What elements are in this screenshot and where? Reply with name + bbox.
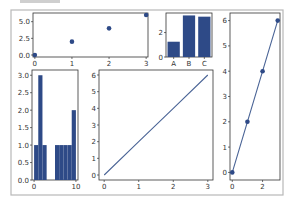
x-tick-label: 2 xyxy=(171,183,175,191)
y-tick-label: 2 xyxy=(223,118,227,126)
y-tick-label: 2.5 xyxy=(18,89,29,97)
data-point xyxy=(70,39,75,44)
hist-bin xyxy=(42,145,46,180)
y-tick-label: 0.0 xyxy=(19,52,30,60)
x-tick-label: 1 xyxy=(136,183,140,191)
data-point xyxy=(230,170,235,175)
y-tick-label: 0.5 xyxy=(18,159,29,167)
y-tick-label: 1 xyxy=(223,144,227,152)
y-tick-label: 4 xyxy=(223,68,228,76)
x-tick-label: 3 xyxy=(144,60,148,68)
hist-bin xyxy=(34,145,38,180)
y-tick-label: 1 xyxy=(92,155,96,163)
bar-B xyxy=(183,15,195,57)
axes-box xyxy=(33,13,148,57)
data-point xyxy=(107,26,112,31)
bottom-left-histogram-axes: 0100.00.51.01.52.02.53.0 xyxy=(18,70,81,191)
data-point xyxy=(245,120,250,125)
y-tick-label: 4 xyxy=(92,105,97,113)
y-tick-label: 5.0 xyxy=(19,18,30,26)
y-tick-label: 2.0 xyxy=(18,107,29,115)
y-tick-label: 5 xyxy=(92,88,96,96)
x-tick-label: 2 xyxy=(260,183,264,191)
y-tick-label: 0 xyxy=(223,169,227,177)
bottom-middle-line-axes: 01230123456 xyxy=(92,70,213,191)
y-tick-label: 6 xyxy=(92,72,97,80)
bar-C xyxy=(198,17,210,57)
data-point xyxy=(260,69,265,74)
data-point xyxy=(33,53,38,58)
right-line-markers-axes: 020123456 xyxy=(223,13,280,191)
hist-bin xyxy=(38,75,42,180)
x-tick-label: 3 xyxy=(206,183,210,191)
figure-canvas: 01230.02.55.0ABC020201234560100.00.51.01… xyxy=(0,0,293,205)
bar-A xyxy=(168,42,180,57)
x-tick-label: 0 xyxy=(33,60,37,68)
top-left-scatter-axes: 01230.02.55.0 xyxy=(19,13,149,68)
x-tick-label: 0 xyxy=(102,183,106,191)
hist-bin xyxy=(63,145,67,180)
x-tick-label: 2 xyxy=(107,60,111,68)
y-tick-label: 2.5 xyxy=(19,35,30,43)
x-tick-label: 10 xyxy=(71,183,80,191)
x-tick-label: B xyxy=(187,60,192,68)
y-tick-label: 3.0 xyxy=(18,72,29,80)
x-tick-label: 0 xyxy=(230,183,234,191)
y-tick-label: 2 xyxy=(92,138,96,146)
x-tick-label: 1 xyxy=(70,60,74,68)
y-tick-label: 1.0 xyxy=(18,142,29,150)
data-point xyxy=(144,13,149,18)
y-tick-label: 3 xyxy=(223,93,227,101)
y-tick-label: 0 xyxy=(159,54,163,62)
x-tick-label: A xyxy=(171,60,176,68)
y-tick-label: 5 xyxy=(223,42,227,50)
y-tick-label: 0 xyxy=(92,172,96,180)
y-tick-label: 6 xyxy=(223,17,228,25)
hist-bin xyxy=(72,110,76,180)
x-tick-label: C xyxy=(202,60,207,68)
y-tick-label: 3 xyxy=(92,122,96,130)
hist-bin xyxy=(59,145,63,180)
y-tick-label: 1.5 xyxy=(18,124,29,132)
x-tick-label: 0 xyxy=(32,183,36,191)
hist-bin xyxy=(55,145,59,180)
y-tick-label: 0.0 xyxy=(18,177,29,185)
top-middle-bar-axes: ABC02 xyxy=(159,13,212,68)
y-tick-label: 2 xyxy=(159,29,163,37)
data-point xyxy=(275,18,280,23)
hist-bin xyxy=(68,145,72,180)
